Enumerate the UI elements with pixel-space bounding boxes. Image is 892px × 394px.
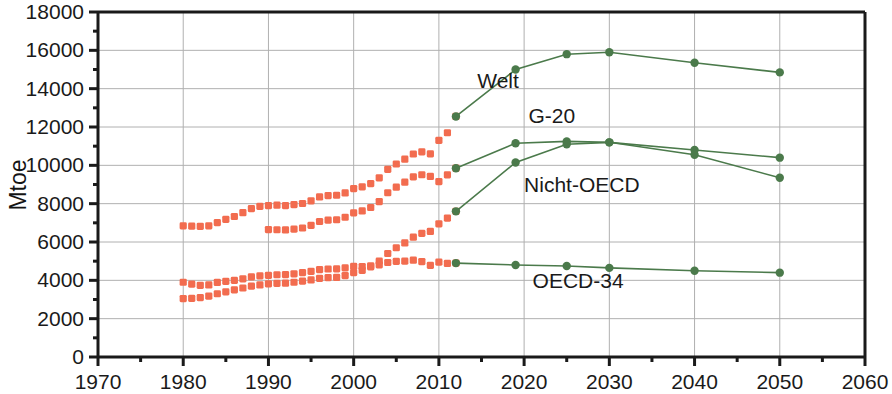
data-point: [205, 222, 212, 229]
data-point: [231, 277, 238, 284]
data-point: [256, 272, 263, 279]
y-axis-tick-label: 18000: [26, 0, 84, 23]
x-axis-tick-label: 2000: [330, 370, 377, 393]
data-point: [452, 164, 460, 172]
data-point: [325, 274, 332, 281]
data-point: [452, 207, 460, 215]
data-point: [248, 205, 255, 212]
data-point: [290, 201, 297, 208]
data-point: [359, 183, 366, 190]
data-point: [410, 257, 417, 264]
data-point: [376, 198, 383, 205]
x-axis-tick-label: 2030: [586, 370, 633, 393]
data-point: [427, 228, 434, 235]
data-point: [444, 171, 451, 178]
data-point: [282, 226, 289, 233]
y-axis-tick-label: 6000: [37, 230, 84, 253]
data-point: [384, 250, 391, 257]
y-axis-tick-label: 8000: [37, 192, 84, 215]
data-point: [342, 189, 349, 196]
data-point: [307, 222, 314, 229]
data-point: [376, 261, 383, 268]
data-point: [511, 261, 519, 269]
data-point: [376, 174, 383, 181]
data-point: [180, 295, 187, 302]
data-point: [776, 268, 784, 276]
data-point: [188, 281, 195, 288]
data-point: [776, 68, 784, 76]
data-point: [222, 288, 229, 295]
data-point: [384, 166, 391, 173]
data-point: [307, 268, 314, 275]
data-point: [197, 294, 204, 301]
chart-canvas: 0200040006000800010000120001400016000180…: [0, 0, 892, 394]
data-point: [231, 213, 238, 220]
data-point: [282, 271, 289, 278]
data-point: [248, 282, 255, 289]
series-annotation-g-20: G-20: [528, 104, 575, 127]
data-point: [239, 275, 246, 282]
data-point: [325, 265, 332, 272]
data-point: [197, 282, 204, 289]
series-oecd-34-historical: [180, 257, 460, 289]
data-point: [256, 281, 263, 288]
x-axis-tick-label: 2060: [842, 370, 889, 393]
data-point: [290, 279, 297, 286]
y-axis-title: Mtoe: [5, 159, 31, 210]
data-point: [435, 220, 442, 227]
data-point: [393, 244, 400, 251]
data-point: [256, 203, 263, 210]
data-point: [265, 202, 272, 209]
data-point: [273, 202, 280, 209]
data-point: [444, 260, 451, 267]
data-point: [384, 259, 391, 266]
data-point: [401, 258, 408, 265]
data-point: [290, 270, 297, 277]
data-point: [452, 259, 460, 267]
data-point: [299, 200, 306, 207]
series-g-20-historical: [265, 165, 460, 234]
series-welt-historical: [180, 113, 460, 230]
data-point: [563, 140, 571, 148]
data-point: [265, 272, 272, 279]
data-point: [342, 272, 349, 279]
data-point: [214, 279, 221, 286]
data-point: [282, 202, 289, 209]
data-point: [205, 281, 212, 288]
data-point: [333, 192, 340, 199]
y-axis-tick-label: 4000: [37, 268, 84, 291]
data-point: [605, 48, 613, 56]
data-point: [418, 148, 425, 155]
series-annotation-welt: Welt: [477, 69, 519, 92]
data-point: [435, 178, 442, 185]
data-point: [316, 193, 323, 200]
data-point: [222, 216, 229, 223]
data-point: [690, 267, 698, 275]
data-point: [307, 197, 314, 204]
data-point: [418, 171, 425, 178]
y-axis-tick-label: 2000: [37, 307, 84, 330]
data-point: [427, 262, 434, 269]
data-point: [410, 150, 417, 157]
y-axis-tick-label: 16000: [26, 38, 84, 61]
data-point: [384, 189, 391, 196]
data-point: [214, 290, 221, 297]
data-point: [239, 209, 246, 216]
data-point: [307, 276, 314, 283]
series-annotation-oecd-34: OECD-34: [533, 269, 624, 292]
data-point: [410, 173, 417, 180]
data-point: [350, 263, 357, 270]
data-point: [605, 138, 613, 146]
data-point: [290, 226, 297, 233]
y-axis-tick-label: 0: [72, 345, 84, 368]
x-axis-tick-label: 2010: [416, 370, 463, 393]
data-point: [325, 192, 332, 199]
series-g-20-projection: [452, 137, 784, 172]
data-point: [367, 180, 374, 187]
data-point: [393, 160, 400, 167]
y-axis-tick-label: 10000: [26, 153, 84, 176]
data-point: [180, 279, 187, 286]
data-point: [393, 258, 400, 265]
data-point: [690, 151, 698, 159]
x-axis-tick-label: 1970: [75, 370, 122, 393]
